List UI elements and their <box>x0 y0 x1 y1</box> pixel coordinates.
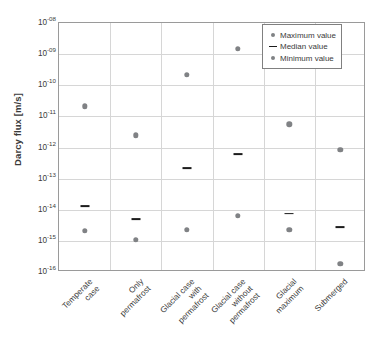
legend-item-label: Median value <box>279 42 328 51</box>
data-point-dot <box>235 213 240 218</box>
data-point-dash <box>234 153 243 155</box>
legend-item: Median value <box>267 41 336 52</box>
data-point-dot <box>184 227 189 232</box>
y-axis-tick-label: 10-14 <box>2 204 56 213</box>
y-axis-tick-label: 10-10 <box>2 80 56 89</box>
gridline-vertical <box>110 23 111 270</box>
gridline-horizontal <box>59 241 364 242</box>
legend-dash-icon <box>267 46 279 48</box>
data-point-dash <box>131 218 140 220</box>
data-point-dot <box>235 46 240 51</box>
darcy-flux-chart: Darcy flux [m/s] 10-0810-0910-1010-1110-… <box>0 0 377 341</box>
y-axis-tick-labels: 10-0810-0910-1010-1110-1210-1310-1410-15… <box>0 22 56 271</box>
data-point-dash <box>285 213 294 215</box>
gridline-vertical <box>161 23 162 270</box>
gridline-horizontal <box>59 210 364 211</box>
data-point-dot <box>287 122 292 127</box>
legend-item-label: Minimum value <box>279 54 334 63</box>
y-axis-tick-label: 10-08 <box>2 18 56 27</box>
gridline-vertical <box>213 23 214 270</box>
y-axis-tick-label: 10-13 <box>2 173 56 182</box>
data-point-dot <box>133 132 138 137</box>
legend-dot-icon <box>267 56 279 60</box>
data-point-dash <box>182 167 191 169</box>
legend-dot-icon <box>267 33 279 37</box>
gridline-horizontal <box>59 116 364 117</box>
data-point-dot <box>338 147 343 152</box>
data-point-dash <box>336 227 345 229</box>
data-point-dot <box>184 72 189 77</box>
x-axis-tick-labels: Temperate caseOnly permafrostGlacial cas… <box>0 271 377 341</box>
data-point-dot <box>287 227 292 232</box>
legend: Maximum valueMedian valueMinimum value <box>262 24 342 69</box>
data-point-dot <box>82 228 87 233</box>
gridline-horizontal <box>59 148 364 149</box>
y-axis-tick-label: 10-11 <box>2 111 56 120</box>
legend-item-label: Maximum value <box>279 31 336 40</box>
legend-item: Maximum value <box>267 30 336 41</box>
y-axis-tick-label: 10-12 <box>2 142 56 151</box>
y-axis-tick-label: 10-09 <box>2 49 56 58</box>
y-axis-tick-label: 10-15 <box>2 235 56 244</box>
data-point-dot <box>82 104 87 109</box>
data-point-dot <box>338 261 343 266</box>
legend-item: Minimum value <box>267 53 336 64</box>
gridline-horizontal <box>59 85 364 86</box>
gridline-horizontal <box>59 179 364 180</box>
data-point-dash <box>80 205 89 207</box>
